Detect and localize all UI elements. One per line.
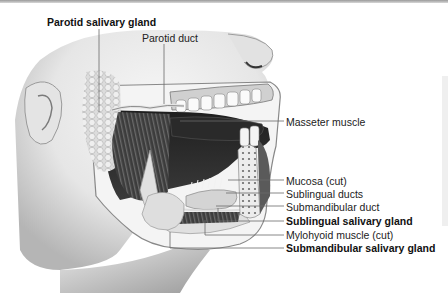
label-masseter-muscle: Masseter muscle — [286, 116, 365, 128]
label-parotid-duct: Parotid duct — [142, 32, 198, 44]
label-submandibular-duct: Submandibular duct — [286, 201, 379, 213]
label-parotid-salivary-gland: Parotid salivary gland — [47, 16, 156, 28]
label-mylohyoid-muscle-cut: Mylohyoid muscle (cut) — [286, 229, 393, 241]
label-mucosa-cut: Mucosa (cut) — [286, 175, 347, 187]
mylohyoid-muscle — [176, 212, 240, 224]
label-sublingual-ducts: Sublingual ducts — [286, 188, 363, 200]
label-submandibular-salivary-gland: Submandibular salivary gland — [286, 242, 435, 254]
submandibular-gland — [142, 192, 184, 230]
label-sublingual-salivary-gland: Sublingual salivary gland — [286, 215, 413, 227]
mandible-cross-section — [238, 144, 260, 218]
